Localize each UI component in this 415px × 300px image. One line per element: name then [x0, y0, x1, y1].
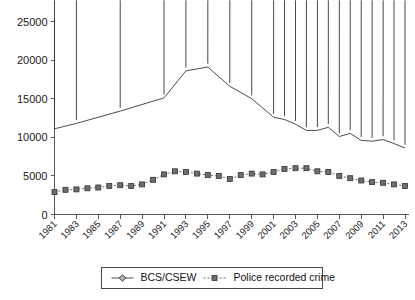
y-axis-tick-label: 0 — [41, 209, 47, 221]
data-point-marker — [227, 177, 232, 182]
data-point-marker — [403, 183, 408, 188]
x-axis-tick-label: 1995 — [190, 218, 213, 241]
data-point-marker — [205, 173, 210, 178]
y-axis-tick-label: 20000 — [17, 54, 48, 66]
x-axis-tick-label: 2009 — [343, 218, 366, 241]
legend-label-bcs-csew: BCS/CSEW — [141, 271, 197, 283]
x-axis: 1981198319851987198919911993199519971999… — [36, 215, 409, 241]
data-point-marker — [337, 173, 342, 178]
y-axis-tick-label: 25000 — [17, 16, 48, 28]
data-point-marker — [129, 183, 134, 188]
x-axis-tick-label: 2001 — [255, 218, 278, 241]
x-axis-tick-label: 2003 — [277, 218, 300, 241]
data-point-marker — [151, 177, 156, 182]
data-point-marker — [381, 180, 386, 185]
legend-label-police-recorded-crime: Police recorded crime — [234, 271, 336, 283]
data-point-marker — [140, 182, 145, 187]
data-point-marker — [96, 185, 101, 190]
x-axis-tick-label: 1981 — [36, 218, 59, 241]
y-axis-tick-label: 15000 — [17, 93, 48, 105]
chart-canvas: 0500010000150002000025000 19811983198519… — [0, 0, 415, 300]
data-point-marker — [52, 190, 57, 195]
x-axis-tick-label: 2005 — [299, 218, 322, 241]
data-point-marker — [304, 166, 309, 171]
chart-legend: BCS/CSEWPolice recorded crime — [102, 268, 336, 289]
data-point-marker — [293, 166, 298, 171]
data-point-marker — [107, 183, 112, 188]
data-point-marker — [85, 186, 90, 191]
crime-trend-chart: 0500010000150002000025000 19811983198519… — [0, 0, 415, 300]
data-point-marker — [282, 167, 287, 172]
x-axis-tick-label: 1983 — [58, 218, 81, 241]
data-point-marker — [63, 187, 68, 192]
x-axis-tick-label: 2011 — [365, 218, 387, 240]
data-point-marker — [194, 171, 199, 176]
data-point-marker — [370, 180, 375, 185]
data-point-marker — [216, 173, 221, 178]
x-axis-tick-label: 1987 — [102, 218, 125, 241]
data-point-marker — [271, 170, 276, 175]
data-point-marker — [173, 169, 178, 174]
y-axis-tick-label: 5000 — [23, 170, 47, 182]
data-point-marker — [118, 183, 123, 188]
x-axis-tick-label: 1993 — [168, 218, 191, 241]
y-axis: 0500010000150002000025000 — [17, 16, 55, 221]
x-axis-tick-label: 1991 — [146, 218, 169, 241]
data-point-marker — [249, 171, 254, 176]
x-axis-tick-label: 1999 — [233, 218, 256, 241]
x-axis-tick-label: 1985 — [80, 218, 103, 241]
data-point-marker — [326, 170, 331, 175]
x-axis-tick-label: 2013 — [387, 218, 410, 241]
data-point-marker — [392, 182, 397, 187]
data-point-marker — [74, 187, 79, 192]
data-point-marker — [183, 170, 188, 175]
y-axis-tick-label: 10000 — [17, 131, 48, 143]
data-point-marker — [348, 176, 353, 181]
series-layer — [52, 0, 408, 194]
data-point-marker — [260, 172, 265, 177]
legend-marker-square — [212, 276, 217, 281]
data-point-marker — [315, 169, 320, 174]
data-point-marker — [359, 178, 364, 183]
data-point-marker — [238, 173, 243, 178]
data-point-marker — [162, 172, 167, 177]
x-axis-tick-label: 1989 — [124, 218, 147, 241]
x-axis-tick-label: 1997 — [211, 218, 234, 241]
x-axis-tick-label: 2007 — [321, 218, 344, 241]
